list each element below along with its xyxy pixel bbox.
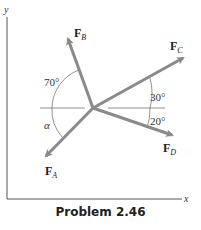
label-fb: FB [74,26,86,42]
angle-label-70: 70° [44,76,59,88]
force-diagram: y x FB FC FD FA 70° α 30° 20° [0,0,201,230]
vector-fa [46,108,93,156]
angle-label-20: 20° [150,115,165,127]
angle-label-alpha: α [44,119,50,131]
angle-arc-alpha [52,108,62,137]
angle-label-30: 30° [150,91,165,103]
y-axis-label: y [3,4,9,15]
label-fa: FA [45,164,57,180]
x-axis-label: x [183,193,189,204]
figure-caption: Problem 2.46 [0,205,201,219]
vector-fc [93,58,183,108]
coordinate-axes: y x [3,4,189,204]
label-fd: FD [163,141,176,157]
label-fc: FC [170,39,183,55]
